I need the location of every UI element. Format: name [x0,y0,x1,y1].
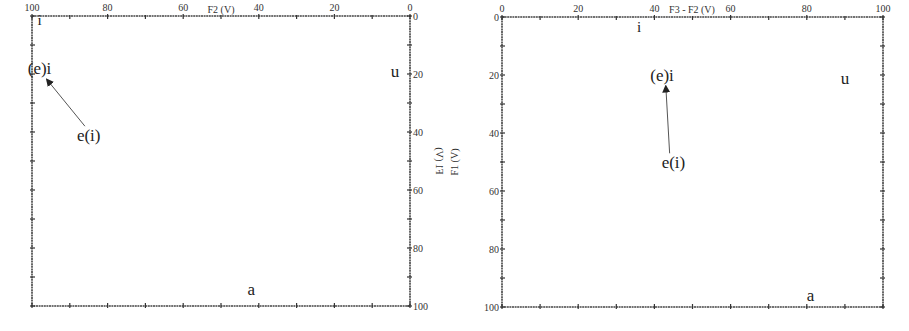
x-axis-title: F2 (V) [208,4,235,16]
y-axis-title: F1 (V) [449,149,461,176]
y-tick-label: 80 [489,244,499,255]
y-axis-ticks: 020406080100 [30,11,428,312]
x-tick-label: 80 [802,3,812,14]
vowel-label-ei: e(i) [662,153,686,172]
vowel-label-a: a [247,280,255,299]
x-tick-label: 60 [178,2,188,13]
vowel-label-u: u [391,62,400,81]
x-tick-label: 20 [573,3,583,14]
chart-f1-vs-f2: F2 (V) F1 (V) 100806040200 020406080100 … [25,2,446,312]
vowel-label-ei: (e)i [650,66,674,85]
x-tick-label: 0 [500,3,505,14]
vowel-label-u: u [841,69,850,88]
vowel-label-i: i [37,12,41,28]
vowel-label-ei: (e)i [28,59,52,78]
y-tick-label: 0 [413,11,418,22]
plot-frame [32,16,410,306]
y-tick-label: 20 [489,70,499,81]
plot-frame [502,17,883,307]
y-tick-label: 100 [413,301,428,312]
y-tick-label: 60 [413,185,423,196]
y-tick-label: 0 [494,12,499,23]
y-tick-label: 40 [489,128,499,139]
annotation-arrow [47,80,85,126]
chart-f1-vs-f3-minus-f2: F3 - F2 (V) F1 (V) 020406080100 02040608… [449,3,891,313]
x-tick-label: 0 [408,2,413,13]
y-tick-label: 20 [413,69,423,80]
x-axis-title: F3 - F2 (V) [669,4,715,16]
x-tick-label: 100 [876,3,891,14]
x-tick-label: 80 [103,2,113,13]
y-tick-label: 60 [489,186,499,197]
vowel-labels: i(e)iuae(i) [637,19,850,306]
x-tick-label: 40 [649,3,659,14]
annotation-arrow [666,87,670,154]
y-axis-title-mirrored: F1 (V) [433,148,445,175]
annotations [47,80,85,126]
vowel-label-i: i [637,19,641,35]
vowel-label-ei: e(i) [77,126,101,145]
x-axis-ticks: 020406080100 [500,3,891,309]
x-tick-label: 60 [726,3,736,14]
x-axis-ticks: 100806040200 [25,2,413,308]
y-tick-label: 80 [413,243,423,254]
vowel-charts: F2 (V) F1 (V) 100806040200 020406080100 … [0,0,909,331]
vowel-labels: i(e)iuae(i) [28,12,400,299]
y-tick-label: 100 [484,302,499,313]
vowel-label-a: a [807,286,815,305]
x-tick-label: 40 [254,2,264,13]
y-tick-label: 40 [413,127,423,138]
x-tick-label: 20 [329,2,339,13]
annotations [666,87,670,154]
